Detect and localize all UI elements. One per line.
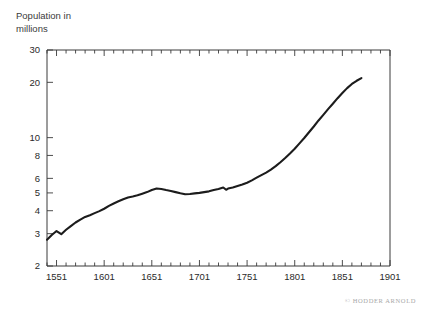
x-tick-label: 1651 <box>141 271 162 282</box>
x-tick-label: 1551 <box>46 271 67 282</box>
y-tick-label: 30 <box>29 44 40 55</box>
x-axis-ticks: 15511601165117011751180118511901 <box>46 50 401 282</box>
copyright-credit: © HODDER ARNOLD <box>345 297 416 304</box>
y-tick-label: 4 <box>35 205 40 216</box>
y-tick-label: 2 <box>35 260 40 271</box>
y-tick-label: 20 <box>29 77 40 88</box>
x-tick-label: 1901 <box>379 271 400 282</box>
plot-frame <box>47 50 390 266</box>
x-tick-label: 1601 <box>94 271 115 282</box>
x-tick-label: 1751 <box>237 271 258 282</box>
y-tick-label: 8 <box>35 150 40 161</box>
axis-left-bottom <box>47 50 390 266</box>
y-axis-title-line-1: Population in <box>16 10 71 21</box>
y-tick-label: 3 <box>35 228 40 239</box>
y-axis-title-line-2: millions <box>16 23 48 34</box>
x-tick-label: 1701 <box>189 271 210 282</box>
chart-canvas: Population in millions 234568102030 1551… <box>0 0 424 310</box>
axis-top-right <box>47 50 390 266</box>
y-tick-label: 10 <box>29 132 40 143</box>
data-series <box>47 78 361 240</box>
x-tick-label: 1851 <box>332 271 353 282</box>
x-tick-label: 1801 <box>284 271 305 282</box>
y-axis-title: Population in millions <box>16 10 71 34</box>
y-tick-label: 5 <box>35 187 40 198</box>
population-chart-figure: Population in millions 234568102030 1551… <box>0 0 424 310</box>
population-line <box>47 78 361 240</box>
y-tick-label: 6 <box>35 173 40 184</box>
